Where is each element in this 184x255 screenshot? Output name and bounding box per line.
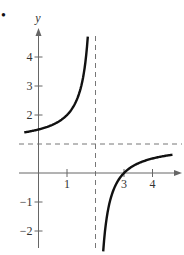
y-tick-label: 4	[27, 50, 33, 64]
function-graph: 134432−1−2 y	[0, 0, 184, 255]
y-tick-label: −2	[20, 224, 33, 238]
curve-right-branch	[103, 155, 172, 252]
y-axis-label: y	[34, 11, 41, 25]
y-tick-label: −1	[20, 195, 33, 209]
y-tick-label: 2	[27, 108, 33, 122]
x-tick-label: 4	[150, 177, 156, 191]
x-tick-label: 3	[121, 177, 127, 191]
curve-left-branch	[24, 37, 88, 133]
x-tick-label: 1	[64, 177, 70, 191]
y-tick-label: 3	[27, 79, 33, 93]
